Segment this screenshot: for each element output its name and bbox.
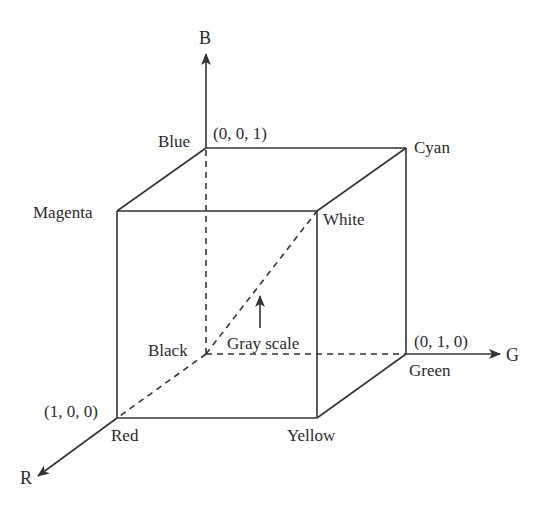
coord-label-green: (0, 1, 0) — [414, 332, 468, 351]
gray-scale-label: Gray scale — [227, 334, 299, 353]
b-axis-label: B — [199, 28, 211, 48]
vertex-label-blue: Blue — [158, 132, 190, 151]
coord-label-blue: (0, 0, 1) — [213, 124, 267, 143]
vertex-label-white: White — [323, 210, 365, 229]
rgb-color-cube-diagram: B G R Blue (0, 0, 1) Cyan Magenta White … — [0, 0, 548, 508]
r-axis — [38, 418, 117, 476]
vertex-label-red: Red — [111, 426, 139, 445]
r-axis-label: R — [20, 468, 32, 488]
axes — [38, 54, 500, 476]
vertex-label-cyan: Cyan — [414, 138, 450, 157]
edge-blue-magenta — [117, 148, 206, 211]
hidden-edges — [117, 148, 406, 418]
edge-yellow-green — [317, 354, 406, 418]
vertex-label-magenta: Magenta — [33, 203, 93, 222]
gray-scale-diagonal — [206, 211, 317, 354]
g-axis-label: G — [506, 345, 519, 365]
edge-black-red — [117, 354, 206, 418]
coord-label-red: (1, 0, 0) — [44, 402, 98, 421]
vertex-label-yellow: Yellow — [287, 426, 336, 445]
vertex-label-black: Black — [148, 341, 188, 360]
vertex-label-green: Green — [409, 361, 451, 380]
edge-cyan-white — [317, 148, 406, 211]
